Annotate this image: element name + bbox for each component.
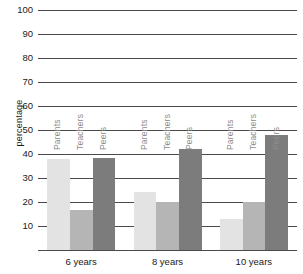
y-axis-tick-label: 70 xyxy=(22,75,33,88)
y-axis-tick-label: 10 xyxy=(22,219,33,232)
bar-fill xyxy=(265,135,288,250)
y-axis-tick-label: 60 xyxy=(22,99,33,112)
bar-fill xyxy=(47,159,70,250)
x-axis-category-label: 8 years xyxy=(134,256,202,267)
series-label-peers: Peers xyxy=(184,127,194,150)
y-axis-tick-label: 30 xyxy=(22,171,33,184)
x-axis-line xyxy=(38,250,297,251)
bar-fill xyxy=(70,210,93,250)
y-axis-tick-label: 40 xyxy=(22,147,33,160)
bar-fill xyxy=(179,149,202,250)
x-axis-category-label: 10 years xyxy=(220,256,288,267)
plot-area: 100908070605040302010 ParentsTeachersPee… xyxy=(38,10,297,250)
y-axis-tick-label: 80 xyxy=(22,51,33,64)
series-label-teachers: Teachers xyxy=(248,114,258,150)
bar-group: ParentsTeachersPeers xyxy=(220,10,288,250)
series-label-teachers: Teachers xyxy=(162,114,172,150)
y-axis-tick-label: 20 xyxy=(22,195,33,208)
series-label-peers: Peers xyxy=(271,127,281,150)
series-label-parents: Parents xyxy=(139,119,149,150)
series-label-peers: Peers xyxy=(98,127,108,150)
y-axis-tick-label: 50 xyxy=(22,123,33,136)
bar-fill xyxy=(156,202,179,250)
bar-fill xyxy=(93,158,116,250)
bar-fill xyxy=(243,202,266,250)
bar-groups: ParentsTeachersPeersParentsTeachersPeers… xyxy=(38,10,297,250)
y-axis-tick-label: 90 xyxy=(22,27,33,40)
bars: ParentsTeachersPeers xyxy=(47,10,115,250)
x-axis-category-label: 6 years xyxy=(47,256,115,267)
bar-group: ParentsTeachersPeers xyxy=(47,10,115,250)
y-axis-tick-label: 100 xyxy=(17,3,33,16)
bars: ParentsTeachersPeers xyxy=(134,10,202,250)
bar-group: ParentsTeachersPeers xyxy=(134,10,202,250)
bar-fill xyxy=(220,219,243,250)
series-label-parents: Parents xyxy=(52,119,62,150)
series-label-parents: Parents xyxy=(225,119,235,150)
series-label-teachers: Teachers xyxy=(75,114,85,150)
bars: ParentsTeachersPeers xyxy=(220,10,288,250)
bar-chart: percentage 100908070605040302010 Parents… xyxy=(0,0,303,274)
x-axis-tick-labels: 6 years8 years10 years xyxy=(38,256,297,272)
bar-fill xyxy=(134,192,157,250)
